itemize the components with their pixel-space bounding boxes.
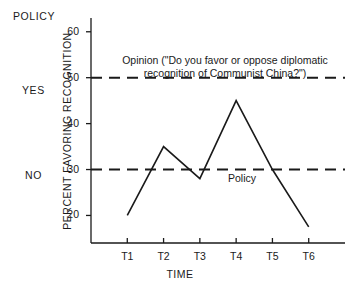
x-tick-label-T5: T5 <box>259 250 285 262</box>
opinion-annotation-line-2: recognition of Communist China?") <box>100 67 350 80</box>
x-axis-ticks <box>127 238 308 243</box>
opinion-annotation-line-1: Opinion ("Do you favor or oppose diploma… <box>100 54 350 67</box>
reference-lines <box>91 78 345 170</box>
policy-line-label: Policy <box>228 172 256 184</box>
y-axis-ticks <box>86 32 91 216</box>
y-tick-label-60: 60 <box>57 25 79 37</box>
x-tick-label-T6: T6 <box>296 250 322 262</box>
y-tick-label-20: 20 <box>57 208 79 220</box>
opinion-series-line <box>127 101 308 227</box>
x-tick-label-T2: T2 <box>151 250 177 262</box>
x-tick-label-T1: T1 <box>114 250 140 262</box>
y-tick-label-30: 30 <box>57 163 79 175</box>
x-tick-label-T4: T4 <box>223 250 249 262</box>
y-tick-label-50: 50 <box>57 71 79 83</box>
chart-figure: POLICY YES NO PERCENT FAVORING RECOGNITI… <box>0 0 360 293</box>
opinion-annotation: Opinion ("Do you favor or oppose diploma… <box>100 54 350 80</box>
x-tick-label-T3: T3 <box>187 250 213 262</box>
x-axis-title: TIME <box>0 268 360 280</box>
y-tick-label-40: 40 <box>57 117 79 129</box>
plot-area: 2030405060 T1T2T3T4T5T6 Opinion ("Do you… <box>0 0 360 293</box>
